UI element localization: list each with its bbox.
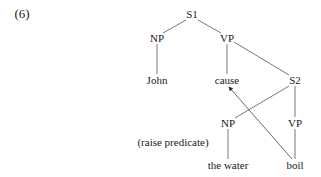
leaf-cause: cause bbox=[215, 74, 239, 86]
leaf-john: John bbox=[147, 74, 168, 86]
movement-arrow bbox=[229, 87, 292, 159]
node-s2: S2 bbox=[289, 74, 301, 86]
node-np-subject: NP bbox=[150, 32, 164, 44]
raise-predicate-annotation: (raise predicate) bbox=[137, 136, 208, 148]
syntax-tree-diagram: (6) S1 NP VP John cause S2 NP VP the wat… bbox=[0, 0, 321, 177]
edge-s2-np bbox=[235, 86, 289, 118]
leaf-the-water: the water bbox=[208, 159, 249, 171]
node-np-embedded: NP bbox=[221, 117, 235, 129]
tree-edges bbox=[0, 0, 321, 177]
example-number: (6) bbox=[14, 8, 29, 20]
edge-vp-s2 bbox=[234, 42, 289, 75]
edge-s1-np bbox=[163, 20, 186, 33]
leaf-boil: boil bbox=[286, 159, 303, 171]
edge-s1-vp bbox=[198, 20, 221, 33]
node-vp-embedded: VP bbox=[288, 117, 302, 129]
node-s1: S1 bbox=[186, 8, 198, 20]
node-vp-matrix: VP bbox=[220, 32, 234, 44]
